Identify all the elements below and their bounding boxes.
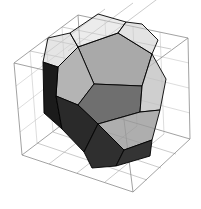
dodecahedron-faces xyxy=(43,14,166,168)
box-vertical-edge xyxy=(188,38,190,139)
dodecahedron-plot xyxy=(0,0,201,209)
figure-canvas xyxy=(0,0,201,209)
box-vertical-edge xyxy=(14,63,22,155)
